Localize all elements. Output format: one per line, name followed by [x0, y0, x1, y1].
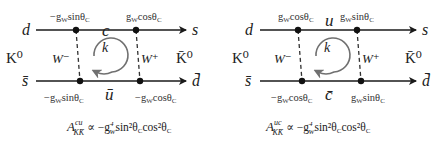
amplitude-formula-uc: AucKK̄∝ −g4Wsin²θCcos²θC	[265, 118, 371, 137]
loop-momentum-arrow-icon	[94, 38, 128, 74]
quark-label-s: s	[422, 21, 428, 38]
quark-label-s-bar: s̄	[22, 72, 28, 89]
coupling-bottom-right: −gWcosθC	[135, 92, 177, 105]
quark-label-s-bar: s̄	[245, 72, 251, 89]
quark-label-d-bar: d̄	[192, 72, 201, 89]
coupling-bottom-right: gWsinθC	[351, 92, 385, 105]
internal-quark-bottom: c̄	[325, 85, 334, 104]
coupling-top-left: gWcosθC	[278, 11, 314, 24]
amplitude-formula-cu: AcuKK̄∝ −g4Wsin²θCcos²θC	[66, 118, 172, 137]
quark-label-d: d	[245, 21, 254, 38]
internal-quark-top: c	[102, 21, 110, 40]
coupling-top-right: gWsinθC	[340, 11, 374, 24]
quark-label-s: s	[192, 21, 198, 38]
coupling-top-right: gWcosθC	[126, 11, 162, 24]
w-plus-propagator	[357, 30, 361, 81]
w-minus-propagator	[298, 30, 302, 81]
vertex-dot	[133, 27, 139, 33]
coupling-top-left: −gWsinθC	[50, 11, 90, 24]
boson-label-w-minus: W⁻	[52, 51, 70, 66]
vertex-dot	[73, 27, 79, 33]
quark-label-d-bar: d̄	[422, 72, 431, 89]
vertex-dot	[299, 78, 305, 84]
loop-momentum-label: k	[102, 40, 109, 55]
internal-quark-top: u	[325, 11, 334, 30]
meson-label-k0-bar: K̄⁰	[405, 50, 422, 66]
loop-momentum-arrow-icon	[316, 38, 350, 74]
quark-label-d: d	[22, 21, 31, 38]
w-minus-propagator	[76, 30, 80, 81]
meson-label-k0-bar: K̄⁰	[176, 50, 193, 66]
vertex-dot	[354, 27, 360, 33]
box-diagrams-figure: d s s̄ d̄ K⁰ K̄⁰ W⁻ W⁺ k c ū −gWsinθC gW…	[0, 0, 436, 143]
internal-quark-bottom: ū	[105, 85, 114, 104]
boson-label-w-minus: W⁻	[274, 51, 292, 66]
coupling-bottom-left: −gWcosθC	[271, 92, 313, 105]
vertex-dot	[137, 78, 143, 84]
loop-momentum-label: k	[324, 40, 331, 55]
box-diagram-uc: d s s̄ d̄ K⁰ K̄⁰ W⁻ W⁺ k u c̄ gWcosθC gW…	[232, 11, 431, 137]
w-plus-propagator	[136, 30, 140, 81]
vertex-dot	[77, 78, 83, 84]
boson-label-w-plus: W⁺	[362, 51, 380, 66]
meson-label-k0: K⁰	[232, 50, 249, 66]
box-diagram-cu: d s s̄ d̄ K⁰ K̄⁰ W⁻ W⁺ k c ū −gWsinθC gW…	[6, 11, 201, 137]
vertex-dot	[358, 78, 364, 84]
boson-label-w-plus: W⁺	[141, 51, 159, 66]
meson-label-k0: K⁰	[6, 50, 23, 66]
vertex-dot	[295, 27, 301, 33]
coupling-bottom-left: −gWsinθC	[44, 92, 84, 105]
